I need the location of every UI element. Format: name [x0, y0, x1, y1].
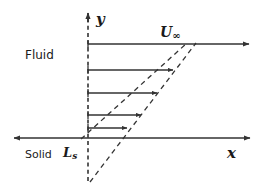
region-label-fluid: Fluid — [25, 49, 54, 61]
slip-length-diagram: Fluid Solid y x U∞ Ls — [0, 0, 264, 192]
freestream-velocity-subscript: ∞ — [172, 30, 180, 41]
slip-length-symbol: L — [63, 145, 72, 160]
region-label-solid: Solid — [25, 149, 52, 160]
velocity-arrow-group — [88, 40, 249, 132]
freestream-velocity-label: U∞ — [160, 25, 180, 41]
slip-length-label: Ls — [63, 146, 77, 161]
diagram-canvas — [0, 0, 264, 192]
dashed-profile-group — [81, 43, 196, 182]
slip-extrapolation-line — [90, 43, 196, 182]
slip-length-subscript: s — [72, 151, 77, 161]
y-axis-label: y — [96, 12, 105, 27]
freestream-velocity-symbol: U — [160, 24, 172, 40]
x-axis-label: x — [227, 146, 236, 161]
